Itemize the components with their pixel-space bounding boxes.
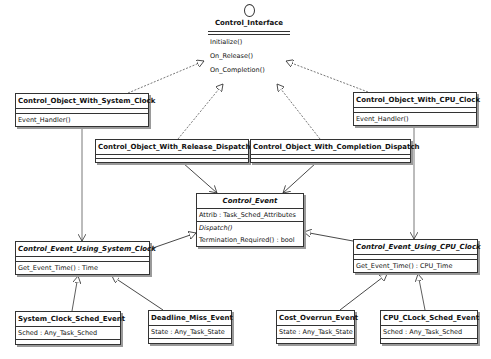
realization-system-clock [128,61,204,93]
operations-section [381,339,477,343]
attributes-section: Attrib : Task_Sched_Attributes [197,209,303,222]
operation: On_Release() [208,49,290,63]
gen-ccse [418,274,425,310]
operation: Event_Handler() [16,114,148,126]
realization-completion [277,84,320,139]
interface-circle-icon [244,4,255,17]
assoc-completion [283,163,316,193]
class-name: Control_Interface [208,19,290,27]
class-name: System_Clock_Sched_Event [16,312,120,327]
assoc-release [183,163,217,193]
operations-section: Event_Handler() [16,114,148,126]
class-name: Deadline_Miss_Event [149,311,231,326]
control-interface[interactable]: Control_Interface Initialize() On_Releas… [208,0,290,77]
attribute: Sched : Any_Task_Sched [381,326,477,338]
class-name: Control_Object_With_CPU_Clock [354,93,476,108]
class-control-object-with-completion-dispatch[interactable]: Control_Object_With_Completion_Dispatch [250,139,411,163]
operation: Get_Event_Time() : CPU_Time [354,260,477,272]
class-cpu-clock-sched-event[interactable]: CPU_CLock_Sched_Event Sched : Any_Task_S… [380,310,478,344]
class-control-object-with-system-clock[interactable]: Control_Object_With_System_Clock Event_H… [15,93,149,127]
class-cost-overrun-event[interactable]: Cost_Overrun_Event State : Any_Task_Stat… [276,310,355,344]
operation: On_Completion() [208,63,290,77]
class-name: Control_Object_With_Completion_Dispatch [251,140,410,155]
class-name: Control_Event_Using_System_Clock [16,242,149,257]
gen-ceus-ce [150,233,196,249]
gen-coe [340,274,387,310]
operations-section [277,339,354,343]
operation: Initialize() [208,35,290,49]
attribute: Sched : Any_Task_Sched [16,327,120,339]
class-name: CPU_CLock_Sched_Event [381,311,477,326]
class-control-object-with-release-dispatch[interactable]: Control_Object_With_Release_Dispatch [95,139,249,163]
operation: Get_Event_Time() : Time [16,262,149,274]
attribute: State : Any_Task_State [277,326,354,338]
attributes-section: Sched : Any_Task_Sched [16,327,120,340]
class-deadline-miss-event[interactable]: Deadline_Miss_Event State : Any_Task_Sta… [148,310,232,344]
class-control-event[interactable]: Control_Event Attrib : Task_Sched_Attrib… [196,193,304,247]
gen-ceuc-ce [304,232,353,241]
attribute: State : Any_Task_State [149,326,231,338]
class-name: Control_Object_With_System_Clock [16,94,148,109]
realization-release [178,84,223,139]
attributes-section: State : Any_Task_State [277,326,354,339]
class-control-event-using-cpu-clock[interactable]: Control_Event_Using_CPU_Clock Get_Event_… [353,239,478,273]
class-name: Control_Event [197,194,303,209]
gen-dme [112,276,163,310]
class-name: Control_Event_Using_CPU_Clock [354,240,477,255]
class-name: Cost_Overrun_Event [277,311,354,326]
divider [208,31,290,32]
operation: Dispatch() [197,222,303,234]
class-control-event-using-system-clock[interactable]: Control_Event_Using_System_Clock Get_Eve… [15,241,150,275]
class-system-clock-sched-event[interactable]: System_Clock_Sched_Event Sched : Any_Tas… [15,311,121,345]
operations-section: Event_Handler() [354,113,476,125]
class-name: Control_Object_With_Release_Dispatch [96,140,248,155]
realization-cpu-clock [286,61,368,92]
class-control-object-with-cpu-clock[interactable]: Control_Object_With_CPU_Clock Event_Hand… [353,92,477,126]
operation: Event_Handler() [354,113,476,125]
operations-section [251,159,410,162]
operations-section [149,339,231,343]
operations-section [96,159,248,162]
attribute: Attrib : Task_Sched_Attributes [197,209,303,221]
operations-section: Get_Event_Time() : CPU_Time [354,260,477,272]
operations-section [16,340,120,344]
operations-section: Get_Event_Time() : Time [16,262,149,274]
attributes-section: Sched : Any_Task_Sched [381,326,477,339]
attributes-section: State : Any_Task_State [149,326,231,339]
gen-scse [72,276,78,311]
operations-section: Dispatch() Termination_Required() : bool [197,222,303,246]
operation: Termination_Required() : bool [197,234,303,246]
